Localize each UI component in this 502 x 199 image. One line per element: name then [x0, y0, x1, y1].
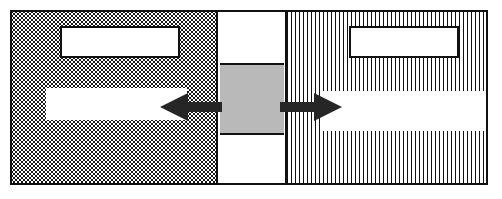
top-right-box: [349, 26, 459, 58]
lower-left-band: [46, 88, 187, 120]
diagram-figure: [0, 0, 502, 199]
lower-right-band: [320, 91, 486, 131]
central-core-block: [220, 63, 284, 135]
diagram-plate: [12, 12, 486, 183]
top-left-box: [60, 26, 180, 58]
outer-frame: [10, 10, 488, 185]
